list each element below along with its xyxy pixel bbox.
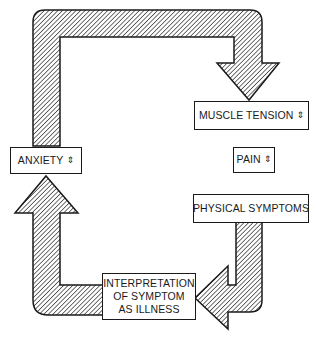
node-label: MUSCLE TENSION xyxy=(199,109,294,122)
node-pain: PAIN ⇕ xyxy=(233,147,275,173)
bottom-right-arrow xyxy=(195,222,262,329)
node-label-line: AS ILLNESS xyxy=(118,303,179,316)
node-label: PAIN xyxy=(237,153,261,166)
node-muscle-tension: MUSCLE TENSION ⇕ xyxy=(194,101,309,130)
up-down-arrow-icon: ⇕ xyxy=(66,155,74,166)
node-interpretation: INTERPRETATION OF SYMPTOM AS ILLNESS xyxy=(102,273,196,320)
node-physical-symptoms: PHYSICAL SYMPTOMS xyxy=(193,194,309,223)
node-anxiety: ANXIETY ⇕ xyxy=(10,147,82,174)
node-label-line: OF SYMPTOM xyxy=(113,290,184,303)
up-down-arrow-icon: ⇕ xyxy=(264,154,272,165)
node-label-line: INTERPRETATION xyxy=(103,277,194,290)
bottom-left-up-arrow xyxy=(15,176,103,315)
node-label: ANXIETY xyxy=(18,154,64,167)
node-label: PHYSICAL SYMPTOMS xyxy=(193,202,309,215)
up-down-arrow-icon: ⇕ xyxy=(296,110,304,121)
